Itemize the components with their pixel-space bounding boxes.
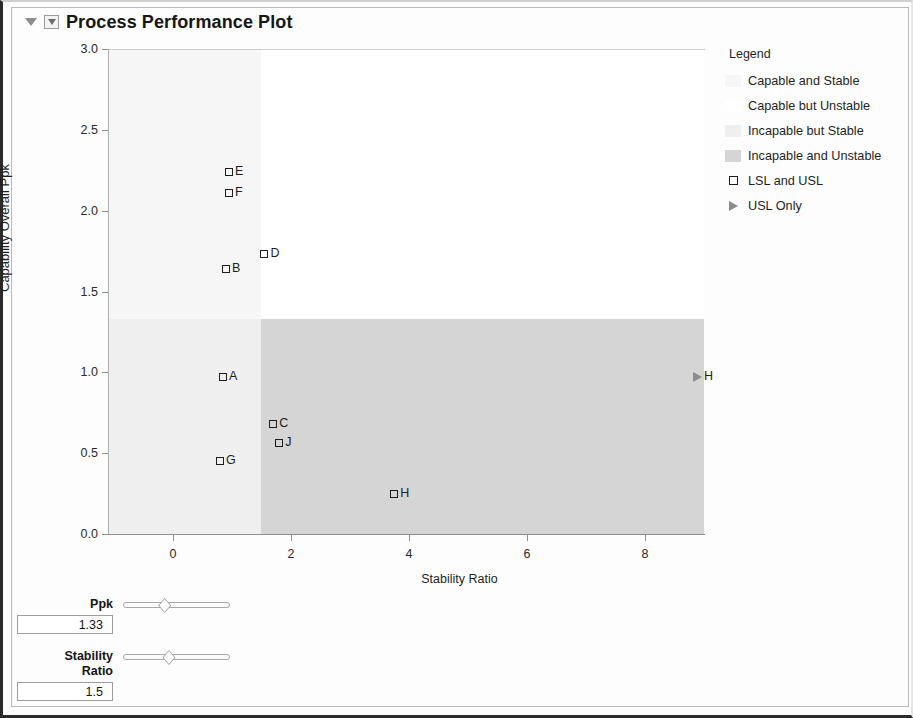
data-point-label: H [400, 486, 409, 500]
legend-marker [725, 201, 741, 211]
x-tick-label: 6 [523, 547, 530, 561]
legend-rows: Capable and StableCapable but UnstableIn… [725, 68, 907, 218]
y-axis-label: Capability Overall Ppk [0, 164, 12, 292]
legend-marker [725, 176, 741, 185]
plot-window: Process Performance Plot EFDBACJGHH 0.00… [0, 0, 913, 718]
x-tick-mark [173, 535, 174, 541]
legend-item-label: USL Only [748, 199, 802, 213]
x-tick-label: 4 [405, 547, 412, 561]
x-tick-mark [409, 535, 410, 541]
y-tick-mark [102, 292, 108, 293]
slider-thumb[interactable] [159, 599, 170, 612]
control-value-field[interactable]: 1.5 [17, 682, 113, 701]
lsl-usl-marker-icon [275, 439, 283, 447]
legend-color-swatch [725, 125, 741, 137]
legend-item[interactable]: Capable and Stable [725, 68, 907, 93]
y-tick-mark [102, 534, 108, 535]
data-point-label: C [279, 416, 288, 430]
y-tick-label: 1.0 [58, 365, 98, 379]
legend-item-label: LSL and USL [748, 174, 823, 188]
data-point-label: H [704, 369, 713, 383]
control-label: StabilityRatio [17, 649, 113, 679]
x-tick-label: 0 [169, 547, 176, 561]
y-tick-label: 3.0 [58, 42, 98, 56]
triangle-down-icon[interactable] [25, 18, 37, 26]
lsl-usl-marker-icon [222, 265, 230, 273]
title-bar: Process Performance Plot [25, 10, 293, 34]
data-point-label: E [235, 164, 243, 178]
lsl-usl-marker-icon [225, 189, 233, 197]
triangle-down-box-icon[interactable] [44, 15, 59, 29]
x-tick-mark [291, 535, 292, 541]
x-axis-line [108, 534, 705, 535]
y-tick-mark [102, 372, 108, 373]
usl-only-marker-icon [729, 201, 738, 211]
legend-title: Legend [729, 47, 907, 61]
lsl-usl-marker-icon [216, 457, 224, 465]
legend-color-swatch [725, 150, 741, 162]
control-slider[interactable] [123, 650, 230, 663]
data-point-label: A [229, 369, 237, 383]
legend-color-swatch [725, 75, 741, 87]
legend-item[interactable]: Incapable and Unstable [725, 143, 907, 168]
data-point-label: D [270, 246, 279, 260]
legend: Legend Capable and StableCapable but Uns… [725, 47, 907, 218]
legend-item-label: Incapable and Unstable [748, 149, 881, 163]
lsl-usl-marker-icon [219, 373, 227, 381]
legend-item-label: Capable but Unstable [748, 99, 870, 113]
page-title: Process Performance Plot [66, 12, 293, 33]
x-tick-label: 8 [642, 547, 649, 561]
region-incapable-but-stable [108, 319, 261, 534]
y-axis-line [108, 49, 109, 535]
control-label-line: Ratio [17, 664, 113, 679]
data-point-label: F [235, 185, 243, 199]
legend-item[interactable]: LSL and USL [725, 168, 907, 193]
data-point-label: J [285, 435, 291, 449]
usl-only-marker-icon [693, 372, 702, 382]
x-tick-mark [527, 535, 528, 541]
region-incapable-and-unstable [261, 319, 704, 534]
lsl-usl-marker-icon [260, 250, 268, 258]
data-point-label: G [226, 453, 236, 467]
control-label-line: Ppk [17, 597, 113, 612]
y-tick-mark [102, 49, 108, 50]
control-slider[interactable] [123, 598, 230, 611]
control-label: Ppk [17, 597, 113, 612]
legend-item[interactable]: Incapable but Stable [725, 118, 907, 143]
lsl-usl-marker-icon [269, 420, 277, 428]
y-tick-label: 2.0 [58, 204, 98, 218]
y-tick-label: 2.5 [58, 123, 98, 137]
y-tick-mark [102, 453, 108, 454]
lsl-usl-marker-icon [390, 490, 398, 498]
legend-item-label: Incapable but Stable [748, 124, 864, 138]
y-tick-mark [102, 130, 108, 131]
legend-item[interactable]: Capable but Unstable [725, 93, 907, 118]
control-value-field[interactable]: 1.33 [17, 615, 113, 634]
region-capable-but-unstable [261, 49, 704, 319]
axis-top-line [108, 49, 705, 50]
legend-item[interactable]: USL Only [725, 193, 907, 218]
lsl-usl-marker-icon [225, 168, 233, 176]
plot-canvas: EFDBACJGHH [108, 49, 704, 534]
y-tick-label: 0.5 [58, 446, 98, 460]
legend-color-swatch [725, 100, 741, 112]
x-axis-ticks: 02468 [3, 547, 913, 563]
slider-track[interactable] [123, 654, 230, 660]
y-tick-label: 0.0 [58, 527, 98, 541]
control-label-line: Stability [17, 649, 113, 664]
data-point-label: B [232, 261, 240, 275]
y-tick-mark [102, 211, 108, 212]
y-tick-label: 1.5 [58, 285, 98, 299]
x-tick-mark [645, 535, 646, 541]
slider-track[interactable] [123, 602, 230, 608]
x-tick-label: 2 [287, 547, 294, 561]
x-axis-label: Stability Ratio [3, 572, 913, 586]
legend-item-label: Capable and Stable [748, 74, 859, 88]
lsl-usl-marker-icon [729, 176, 738, 185]
slider-thumb[interactable] [164, 651, 175, 664]
